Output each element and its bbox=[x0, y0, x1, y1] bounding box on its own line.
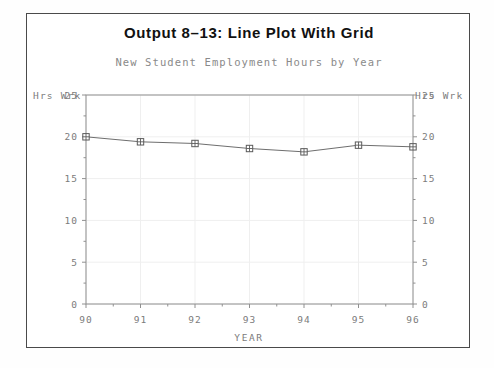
svg-text:20: 20 bbox=[422, 131, 435, 142]
svg-text:10: 10 bbox=[422, 215, 435, 226]
svg-text:0: 0 bbox=[422, 299, 429, 310]
svg-text:25: 25 bbox=[65, 90, 78, 101]
svg-text:25: 25 bbox=[422, 90, 435, 101]
svg-text:95: 95 bbox=[352, 314, 365, 325]
svg-text:20: 20 bbox=[65, 131, 78, 142]
screenshot-canvas: Output 8–13: Line Plot With Grid New Stu… bbox=[0, 0, 494, 368]
svg-text:0: 0 bbox=[71, 299, 78, 310]
svg-text:91: 91 bbox=[134, 314, 147, 325]
svg-text:93: 93 bbox=[243, 314, 256, 325]
svg-text:5: 5 bbox=[71, 257, 78, 268]
svg-text:94: 94 bbox=[297, 314, 310, 325]
svg-text:5: 5 bbox=[422, 257, 429, 268]
svg-text:90: 90 bbox=[79, 314, 92, 325]
line-chart-plot: 0055101015152020252590919293949596 bbox=[27, 14, 471, 349]
svg-text:92: 92 bbox=[188, 314, 201, 325]
svg-text:10: 10 bbox=[65, 215, 78, 226]
svg-text:15: 15 bbox=[65, 173, 78, 184]
svg-text:96: 96 bbox=[406, 314, 419, 325]
grid-lines bbox=[86, 95, 413, 304]
figure-frame: Output 8–13: Line Plot With Grid New Stu… bbox=[26, 13, 470, 348]
svg-text:15: 15 bbox=[422, 173, 435, 184]
